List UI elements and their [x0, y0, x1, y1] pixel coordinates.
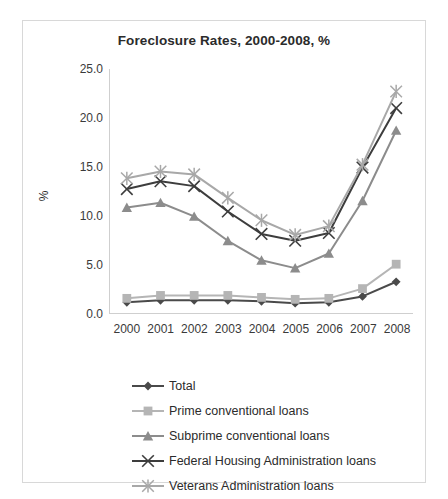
y-axis-tick-label: 10.0: [80, 209, 103, 223]
x-axis-tick-label: 2008: [384, 322, 411, 336]
legend-label: Federal Housing Administration loans: [169, 454, 376, 468]
legend-label: Prime conventional loans: [169, 404, 309, 418]
data-point-marker-star: [256, 214, 268, 227]
data-point-marker-cross: [222, 206, 234, 218]
data-point-marker-star: [289, 228, 301, 241]
y-axis-tick-label: 25.0: [80, 62, 103, 76]
y-axis-tick-label: 0.0: [86, 307, 103, 321]
chart-legend: TotalPrime conventional loansSubprime co…: [131, 373, 376, 498]
x-axis-tick-label: 2000: [114, 322, 141, 336]
data-point-marker-triangle: [357, 196, 367, 205]
data-point-marker-square: [190, 291, 199, 300]
y-axis-tick-label: 20.0: [80, 111, 103, 125]
data-point-marker-diamond: [392, 277, 401, 286]
chart-series-2: [122, 126, 402, 273]
legend-label: Total: [169, 379, 195, 393]
data-point-marker-diamond: [358, 292, 367, 301]
data-point-marker-square: [257, 293, 266, 302]
data-point-marker-cross: [390, 102, 402, 114]
legend-item-4[interactable]: Veterans Administration loans: [131, 473, 376, 498]
data-point-marker-star: [390, 85, 402, 98]
chart-title: Foreclosure Rates, 2000-2008, %: [23, 33, 425, 48]
x-axis-tick-label: 2003: [215, 322, 242, 336]
legend-item-0[interactable]: Total: [131, 373, 376, 398]
legend-item-1[interactable]: Prime conventional loans: [131, 398, 376, 423]
data-point-marker-triangle: [324, 248, 334, 257]
legend-swatch-diamond-icon: [131, 378, 165, 394]
x-axis-tick-label: 2007: [350, 322, 377, 336]
data-point-marker-square: [324, 294, 333, 303]
plot-area: 0.05.010.015.020.025.0200020012002200320…: [109, 69, 413, 314]
legend-item-2[interactable]: Subprime conventional loans: [131, 423, 376, 448]
legend-swatch-star-icon: [131, 478, 165, 494]
data-point-marker-square: [122, 294, 131, 303]
x-axis-tick-label: 2002: [181, 322, 208, 336]
data-point-marker-square: [291, 295, 300, 304]
x-axis-tick-label: 2006: [316, 322, 343, 336]
legend-item-3[interactable]: Federal Housing Administration loans: [131, 448, 376, 473]
y-axis-tick-label: 15.0: [80, 160, 103, 174]
data-point-marker-diamond: [144, 381, 153, 390]
legend-label: Veterans Administration loans: [169, 479, 334, 493]
data-point-marker-star: [222, 191, 234, 204]
legend-swatch-triangle-icon: [131, 428, 165, 444]
chart-figure-frame: Foreclosure Rates, 2000-2008, % % 0.05.0…: [22, 20, 426, 483]
y-axis-tick-label: 5.0: [86, 258, 103, 272]
x-axis-tick-label: 2005: [282, 322, 309, 336]
legend-swatch-cross-icon: [131, 453, 165, 469]
chart-series-4: [121, 85, 402, 242]
data-point-marker-triangle: [256, 255, 266, 264]
data-point-marker-square: [144, 406, 153, 415]
legend-label: Subprime conventional loans: [169, 429, 330, 443]
data-point-marker-square: [223, 291, 232, 300]
legend-swatch-square-icon: [131, 403, 165, 419]
data-point-marker-square: [156, 291, 165, 300]
y-axis-label: %: [37, 191, 51, 202]
chart-lines-svg: [110, 69, 413, 313]
data-point-marker-square: [358, 284, 367, 293]
data-point-marker-triangle: [391, 126, 401, 135]
page-header-ghost: [0, 0, 448, 14]
data-point-marker-square: [392, 260, 401, 269]
x-axis-tick-label: 2004: [249, 322, 276, 336]
data-point-marker-triangle: [189, 211, 199, 220]
x-axis-tick-label: 2001: [147, 322, 174, 336]
